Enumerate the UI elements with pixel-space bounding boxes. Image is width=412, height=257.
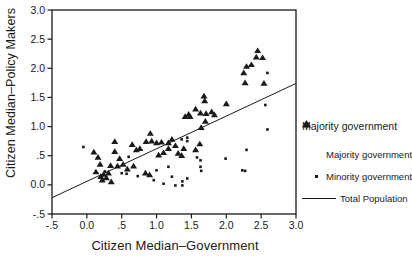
svg-text:0.0: 0.0 bbox=[80, 219, 95, 231]
svg-text:3.0: 3.0 bbox=[289, 219, 304, 231]
legend-item-total-population: Total Population bbox=[302, 193, 404, 204]
svg-text:2.0: 2.0 bbox=[219, 219, 234, 231]
legend: Majority government Majority government … bbox=[302, 120, 404, 204]
svg-text:2.0: 2.0 bbox=[30, 62, 45, 74]
svg-text:.5: .5 bbox=[117, 219, 126, 231]
legend-item-label: Majority government bbox=[326, 149, 412, 160]
svg-text:2.5: 2.5 bbox=[30, 33, 45, 45]
legend-item-label: Total Population bbox=[340, 193, 408, 204]
svg-text:3.0: 3.0 bbox=[30, 4, 45, 16]
svg-text:1.5: 1.5 bbox=[30, 91, 45, 103]
legend-item-label: Minority government bbox=[326, 171, 412, 182]
svg-text:1.0: 1.0 bbox=[149, 219, 164, 231]
svg-text:-.5: -.5 bbox=[46, 219, 58, 231]
svg-text:.5: .5 bbox=[36, 149, 45, 161]
y-axis-title: Citizen Median–Policy Makers bbox=[4, 8, 18, 178]
dot-marker-icon bbox=[311, 175, 321, 178]
svg-text:-.5: -.5 bbox=[33, 208, 45, 220]
svg-text:1.5: 1.5 bbox=[184, 219, 199, 231]
legend-title: Majority government bbox=[302, 120, 404, 132]
svg-text:2.5: 2.5 bbox=[254, 219, 269, 231]
x-axis-title: Citizen Median–Government bbox=[91, 238, 258, 253]
svg-text:0.0: 0.0 bbox=[30, 178, 45, 190]
svg-text:1.0: 1.0 bbox=[30, 120, 45, 132]
line-marker-icon bbox=[302, 198, 336, 199]
legend-item-minority: Minority government bbox=[302, 171, 404, 182]
legend-item-majority: Majority government bbox=[302, 149, 404, 160]
